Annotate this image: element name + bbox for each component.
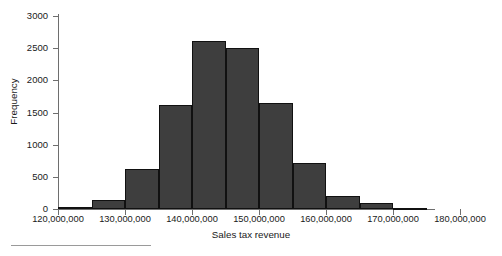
histogram-bar	[226, 48, 260, 209]
y-tick-mark	[53, 16, 59, 17]
histogram-bar	[393, 208, 427, 210]
x-tick-label: 170,000,000	[367, 214, 419, 224]
histogram-bar	[326, 196, 360, 209]
x-tick-label: 130,000,000	[99, 214, 151, 224]
y-tick-mark	[53, 145, 59, 146]
x-tick-label: 120,000,000	[32, 214, 84, 224]
x-axis-label: Sales tax revenue	[0, 229, 502, 240]
x-tick-label: 140,000,000	[166, 214, 218, 224]
plot-area: 050010001500200025003000 120,000,000130,…	[0, 0, 502, 256]
histogram-bar	[58, 207, 92, 209]
y-tick-label: 3000	[8, 11, 48, 21]
y-tick-label: 2500	[8, 43, 48, 53]
histogram-bar	[192, 41, 226, 209]
x-tick-label: 160,000,000	[300, 214, 352, 224]
histogram-bar	[293, 163, 327, 209]
histogram-figure: 050010001500200025003000 120,000,000130,…	[0, 0, 502, 256]
histogram-bar	[360, 203, 394, 209]
y-tick-mark	[53, 177, 59, 178]
y-axis-label: Frequency	[8, 62, 19, 142]
footer-rule	[11, 245, 151, 246]
x-tick-label: 180,000,000	[434, 214, 486, 224]
y-tick-mark	[53, 113, 59, 114]
histogram-bar	[159, 105, 193, 209]
x-tick-label: 150,000,000	[233, 214, 285, 224]
histogram-bar	[125, 169, 159, 209]
y-tick-label: 0	[8, 204, 48, 214]
y-tick-label: 500	[8, 172, 48, 182]
y-tick-mark	[53, 48, 59, 49]
y-tick-mark	[53, 80, 59, 81]
histogram-bar	[259, 103, 293, 209]
x-axis-line	[58, 209, 435, 210]
histogram-bar	[92, 200, 126, 209]
